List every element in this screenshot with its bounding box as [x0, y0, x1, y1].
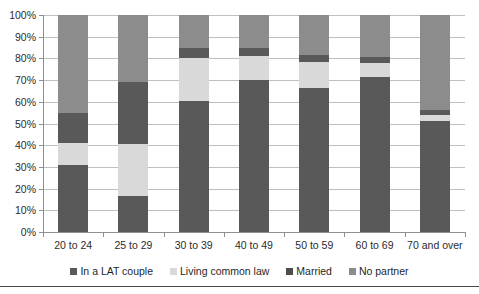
y-axis-tick [39, 189, 43, 190]
y-axis-tick-label: 90% [0, 32, 36, 43]
legend-label: In a LAT couple [80, 266, 153, 277]
bar-group[interactable] [420, 15, 450, 232]
y-axis-tick-label: 10% [0, 205, 36, 216]
y-axis-tick-label: 40% [0, 140, 36, 151]
x-axis-tick-label: 50 to 59 [284, 240, 344, 252]
bar-segment[interactable] [239, 48, 269, 57]
x-axis-tick [164, 233, 165, 237]
legend-item[interactable]: No partner [349, 266, 409, 277]
x-axis-tick [405, 233, 406, 237]
bar-group[interactable] [299, 15, 329, 232]
bar-segment[interactable] [360, 15, 390, 57]
x-axis-line [43, 232, 466, 233]
x-axis-tick-label: 30 to 39 [164, 240, 224, 252]
bar-segment[interactable] [58, 143, 88, 165]
bar-segment[interactable] [420, 15, 450, 110]
bar-segment[interactable] [420, 115, 450, 122]
y-axis-tick-label: 70% [0, 75, 36, 86]
y-axis-tick [39, 210, 43, 211]
x-axis-tick-label: 40 to 49 [224, 240, 284, 252]
y-axis-tick-label: 0% [0, 227, 36, 238]
bar-group[interactable] [118, 15, 148, 232]
legend-swatch-icon [70, 268, 77, 275]
bar-segment[interactable] [118, 196, 148, 232]
y-axis-tick-label: 50% [0, 119, 36, 130]
bar-segment[interactable] [420, 110, 450, 114]
x-axis-tick [43, 233, 44, 237]
y-axis-tick-label: 80% [0, 53, 36, 64]
chart-legend: In a LAT coupleLiving common lawMarriedN… [0, 262, 479, 280]
y-axis-tick [39, 124, 43, 125]
bar-group[interactable] [360, 15, 390, 232]
legend-label: No partner [359, 266, 409, 277]
x-axis-tick-label: 60 to 69 [344, 240, 404, 252]
bar-segment[interactable] [179, 48, 209, 59]
bar-segment[interactable] [299, 55, 329, 62]
bar-segment[interactable] [299, 88, 329, 232]
bar-segment[interactable] [179, 101, 209, 232]
y-axis-tick [39, 15, 43, 16]
legend-item[interactable]: Living common law [170, 266, 269, 277]
x-axis-tick [284, 233, 285, 237]
bar-group[interactable] [179, 15, 209, 232]
y-axis-labels: 100%90%80%70%60%50%40%30%20%10%0% [0, 0, 38, 294]
plot-area [43, 15, 465, 232]
bar-segment[interactable] [299, 15, 329, 55]
bar-segment[interactable] [299, 62, 329, 88]
y-axis-tick-label: 60% [0, 97, 36, 108]
bar-segment[interactable] [58, 165, 88, 232]
y-axis-tick-label: 20% [0, 184, 36, 195]
legend-swatch-icon [349, 268, 356, 275]
legend-swatch-icon [170, 268, 177, 275]
x-axis-tick [103, 233, 104, 237]
bar-segment[interactable] [360, 77, 390, 232]
legend-swatch-icon [286, 268, 293, 275]
x-axis-tick-label: 20 to 24 [43, 240, 103, 252]
x-axis-tick-label: 25 to 29 [103, 240, 163, 252]
x-axis-tick-label: 70 and over [405, 240, 465, 252]
bar-segment[interactable] [58, 113, 88, 143]
legend-label: Married [296, 266, 332, 277]
y-axis-tick [39, 102, 43, 103]
y-axis-tick [39, 167, 43, 168]
bar-segment[interactable] [420, 121, 450, 232]
bar-segment[interactable] [179, 58, 209, 100]
bar-group[interactable] [239, 15, 269, 232]
y-axis-tick [39, 37, 43, 38]
y-axis-tick [39, 58, 43, 59]
legend-item[interactable]: Married [286, 266, 332, 277]
bar-segment[interactable] [360, 57, 390, 62]
bar-segment[interactable] [239, 15, 269, 48]
bar-segment[interactable] [58, 15, 88, 113]
x-axis-tick [465, 233, 466, 237]
y-axis-tick [39, 145, 43, 146]
y-axis-tick-label: 30% [0, 162, 36, 173]
stacked-bar-chart: 100%90%80%70%60%50%40%30%20%10%0% 20 to … [0, 0, 479, 294]
bottom-divider [0, 286, 479, 287]
legend-label: Living common law [180, 266, 269, 277]
x-axis-tick [224, 233, 225, 237]
bar-segment[interactable] [360, 63, 390, 77]
y-axis-line [43, 15, 44, 233]
bar-segment[interactable] [118, 15, 148, 82]
bar-segment[interactable] [239, 80, 269, 232]
y-axis-tick [39, 80, 43, 81]
x-axis-tick [344, 233, 345, 237]
bar-segment[interactable] [239, 56, 269, 80]
legend-item[interactable]: In a LAT couple [70, 266, 153, 277]
y-axis-tick-label: 100% [0, 10, 36, 21]
bar-group[interactable] [58, 15, 88, 232]
bar-segment[interactable] [118, 82, 148, 144]
bar-segment[interactable] [179, 15, 209, 48]
bar-segment[interactable] [118, 144, 148, 196]
